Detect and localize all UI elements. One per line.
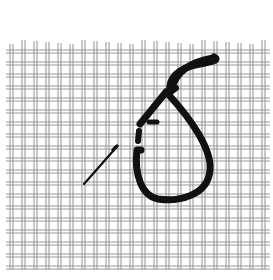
needlework-diagram: needlepoint canvas mesh with thread loop… — [0, 0, 273, 280]
canvas-mesh-illustration — [0, 0, 273, 280]
thread-loop — [136, 57, 216, 200]
needle — [84, 146, 117, 184]
